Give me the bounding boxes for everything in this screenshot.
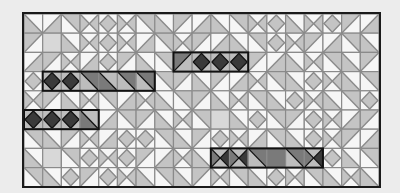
tile[interactable] — [192, 72, 211, 91]
tile[interactable] — [61, 129, 80, 148]
tile[interactable] — [230, 14, 249, 33]
tile[interactable] — [80, 91, 99, 110]
tile[interactable] — [173, 110, 192, 129]
tile[interactable] — [99, 14, 118, 33]
tile[interactable] — [267, 72, 286, 91]
tile[interactable] — [267, 148, 286, 167]
tile[interactable] — [286, 110, 305, 129]
tile[interactable] — [24, 129, 43, 148]
tile[interactable] — [230, 52, 249, 71]
tile[interactable] — [230, 91, 249, 110]
tile[interactable] — [230, 168, 249, 186]
tile[interactable] — [248, 91, 267, 110]
tile[interactable] — [99, 72, 118, 91]
tile[interactable] — [286, 91, 305, 110]
tile[interactable] — [80, 14, 99, 33]
tile[interactable] — [286, 14, 305, 33]
tile[interactable] — [99, 168, 118, 186]
tile[interactable] — [211, 52, 230, 71]
tile[interactable] — [43, 129, 62, 148]
tile[interactable] — [155, 110, 174, 129]
tile[interactable] — [43, 52, 62, 71]
tile[interactable] — [267, 129, 286, 148]
tile[interactable] — [230, 148, 249, 167]
tile[interactable] — [24, 72, 43, 91]
tile[interactable] — [360, 110, 379, 129]
tile[interactable] — [342, 129, 361, 148]
tile[interactable] — [155, 91, 174, 110]
tile[interactable] — [80, 72, 99, 91]
tile[interactable] — [211, 14, 230, 33]
tile[interactable] — [286, 52, 305, 71]
tile[interactable] — [211, 72, 230, 91]
tile[interactable] — [117, 91, 136, 110]
tile[interactable] — [323, 129, 342, 148]
tile[interactable] — [99, 33, 118, 52]
tile[interactable] — [360, 168, 379, 186]
tile[interactable] — [286, 72, 305, 91]
tile[interactable] — [304, 91, 323, 110]
tile[interactable] — [173, 168, 192, 186]
tile[interactable] — [360, 14, 379, 33]
tile[interactable] — [117, 148, 136, 167]
tile[interactable] — [155, 168, 174, 186]
tile[interactable] — [267, 91, 286, 110]
tile[interactable] — [323, 168, 342, 186]
tile[interactable] — [286, 148, 305, 167]
tile[interactable] — [286, 129, 305, 148]
tile[interactable] — [61, 168, 80, 186]
tile[interactable] — [323, 110, 342, 129]
tile[interactable] — [155, 52, 174, 71]
tile[interactable] — [248, 14, 267, 33]
tile[interactable] — [211, 91, 230, 110]
tile[interactable] — [360, 91, 379, 110]
tile[interactable] — [342, 14, 361, 33]
tile[interactable] — [360, 52, 379, 71]
tile[interactable] — [24, 91, 43, 110]
tile[interactable] — [360, 72, 379, 91]
tile[interactable] — [136, 72, 155, 91]
tile[interactable] — [136, 52, 155, 71]
tile[interactable] — [43, 148, 62, 167]
tile[interactable] — [61, 14, 80, 33]
tile[interactable] — [99, 110, 118, 129]
tile[interactable] — [80, 33, 99, 52]
tile[interactable] — [117, 110, 136, 129]
tile[interactable] — [61, 52, 80, 71]
tile[interactable] — [117, 33, 136, 52]
tile[interactable] — [323, 33, 342, 52]
tile[interactable] — [360, 148, 379, 167]
tile[interactable] — [173, 33, 192, 52]
tile[interactable] — [304, 148, 323, 167]
tile[interactable] — [342, 148, 361, 167]
tile[interactable] — [304, 129, 323, 148]
tile[interactable] — [192, 148, 211, 167]
tile[interactable] — [117, 72, 136, 91]
tile[interactable] — [43, 33, 62, 52]
tile[interactable] — [342, 110, 361, 129]
tile[interactable] — [248, 110, 267, 129]
tile[interactable] — [192, 14, 211, 33]
tile[interactable] — [136, 148, 155, 167]
tile[interactable] — [342, 72, 361, 91]
tile[interactable] — [43, 91, 62, 110]
tile[interactable] — [230, 129, 249, 148]
tile[interactable] — [155, 148, 174, 167]
tile[interactable] — [155, 14, 174, 33]
tile[interactable] — [211, 148, 230, 167]
tile[interactable] — [136, 129, 155, 148]
tile[interactable] — [136, 110, 155, 129]
tile[interactable] — [304, 72, 323, 91]
tile[interactable] — [24, 14, 43, 33]
tile[interactable] — [267, 52, 286, 71]
tile[interactable] — [43, 14, 62, 33]
tile[interactable] — [61, 33, 80, 52]
tile[interactable] — [342, 91, 361, 110]
tile[interactable] — [248, 52, 267, 71]
tile[interactable] — [24, 110, 43, 129]
tile[interactable] — [248, 129, 267, 148]
tile[interactable] — [173, 91, 192, 110]
tile[interactable] — [117, 168, 136, 186]
tile[interactable] — [323, 72, 342, 91]
tile[interactable] — [230, 110, 249, 129]
